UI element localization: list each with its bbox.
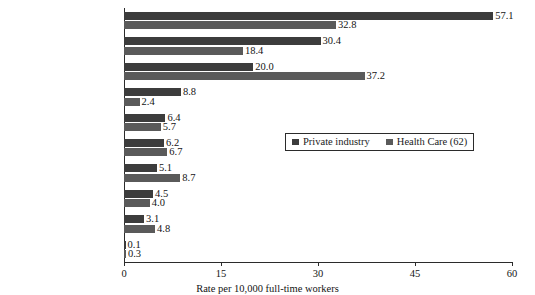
bar-value-label: 6.7 bbox=[169, 147, 182, 158]
bar-health-care bbox=[124, 250, 126, 258]
bar-private-industry bbox=[124, 241, 126, 249]
x-tick-label: 30 bbox=[313, 268, 324, 279]
x-tick bbox=[512, 262, 513, 266]
x-tick bbox=[318, 262, 319, 266]
bar-chart: Overexertion57.132.8Fall on same level30… bbox=[0, 0, 535, 295]
bar-private-industry bbox=[124, 139, 164, 147]
bar-private-industry bbox=[124, 63, 253, 71]
bar-value-label: 20.0 bbox=[255, 62, 273, 73]
bar-value-label: 2.4 bbox=[142, 97, 155, 108]
bar-private-industry bbox=[124, 164, 157, 172]
x-tick-label: 15 bbox=[216, 268, 227, 279]
bar-health-care bbox=[124, 47, 243, 55]
bar-value-label: 32.8 bbox=[338, 20, 356, 31]
x-tick bbox=[415, 262, 416, 266]
bar-value-label: 30.4 bbox=[323, 36, 341, 47]
bar-value-label: 57.1 bbox=[495, 11, 513, 22]
bar-health-care bbox=[124, 98, 140, 106]
bar-health-care bbox=[124, 72, 365, 80]
bar-value-label: 5.1 bbox=[159, 163, 172, 174]
legend-swatch-health-care bbox=[386, 139, 393, 145]
legend-item-health-care: Health Care (62) bbox=[386, 136, 468, 148]
bar-health-care bbox=[124, 225, 155, 233]
x-tick bbox=[124, 262, 125, 266]
bar-value-label: 5.7 bbox=[163, 122, 176, 133]
bar-value-label: 18.4 bbox=[245, 46, 263, 57]
x-axis-label: Rate per 10,000 full-time workers bbox=[0, 283, 535, 294]
bar-private-industry bbox=[124, 88, 181, 96]
legend-item-private-industry: Private industry bbox=[292, 136, 370, 148]
bar-value-label: 37.2 bbox=[367, 71, 385, 82]
legend-swatch-private-industry bbox=[292, 139, 299, 145]
bar-value-label: 8.7 bbox=[182, 173, 195, 184]
bar-value-label: 4.0 bbox=[152, 198, 165, 209]
bar-private-industry bbox=[124, 37, 321, 45]
bar-private-industry bbox=[124, 215, 144, 223]
bar-value-label: 0.3 bbox=[128, 249, 141, 260]
bar-private-industry bbox=[124, 114, 165, 122]
bar-value-label: 8.8 bbox=[183, 87, 196, 98]
bar-health-care bbox=[124, 174, 180, 182]
bar-health-care bbox=[124, 199, 150, 207]
legend-label-private-industry: Private industry bbox=[303, 136, 370, 148]
bar-health-care bbox=[124, 123, 161, 131]
bar-value-label: 4.8 bbox=[157, 224, 170, 235]
x-tick-label: 60 bbox=[507, 268, 518, 279]
x-tick-label: 45 bbox=[410, 268, 421, 279]
x-tick bbox=[221, 262, 222, 266]
bar-health-care bbox=[124, 21, 336, 29]
x-tick-label: 0 bbox=[121, 268, 126, 279]
bar-private-industry bbox=[124, 190, 153, 198]
legend-label-health-care: Health Care (62) bbox=[397, 136, 468, 148]
bar-health-care bbox=[124, 148, 167, 156]
bar-private-industry bbox=[124, 12, 493, 20]
chart-legend: Private industry Health Care (62) bbox=[285, 133, 474, 151]
